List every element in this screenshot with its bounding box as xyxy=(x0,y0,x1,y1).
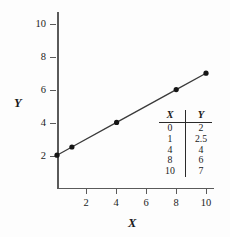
table-cell-y: 7 xyxy=(186,166,213,177)
table-cell-x: 10 xyxy=(159,166,186,177)
table-cell-y: 2.5 xyxy=(186,133,213,144)
table-cell-y: 2 xyxy=(186,122,213,133)
table-header-row: X Y xyxy=(159,110,212,122)
line-chart-figure: 10 8 6 4 2 2 4 6 8 10 Y X X Y 0212.54486… xyxy=(0,0,230,237)
table-row: 12.5 xyxy=(159,133,212,144)
table-cell-x: 4 xyxy=(159,144,186,155)
table-header-y: Y xyxy=(186,110,213,122)
table-cell-x: 0 xyxy=(159,122,186,133)
table-cell-x: 8 xyxy=(159,155,186,166)
data-table: X Y 0212.54486107 xyxy=(159,110,212,177)
data-point xyxy=(54,153,59,158)
table-row: 107 xyxy=(159,166,212,177)
data-point xyxy=(203,71,208,76)
data-point xyxy=(174,87,179,92)
table-cell-y: 6 xyxy=(186,155,213,166)
data-point xyxy=(114,120,119,125)
data-point xyxy=(69,144,74,149)
table-row: 44 xyxy=(159,144,212,155)
table-cell-y: 4 xyxy=(186,144,213,155)
table-row: 86 xyxy=(159,155,212,166)
table-cell-x: 1 xyxy=(159,133,186,144)
table-row: 02 xyxy=(159,122,212,133)
table-header-x: X xyxy=(159,110,186,122)
